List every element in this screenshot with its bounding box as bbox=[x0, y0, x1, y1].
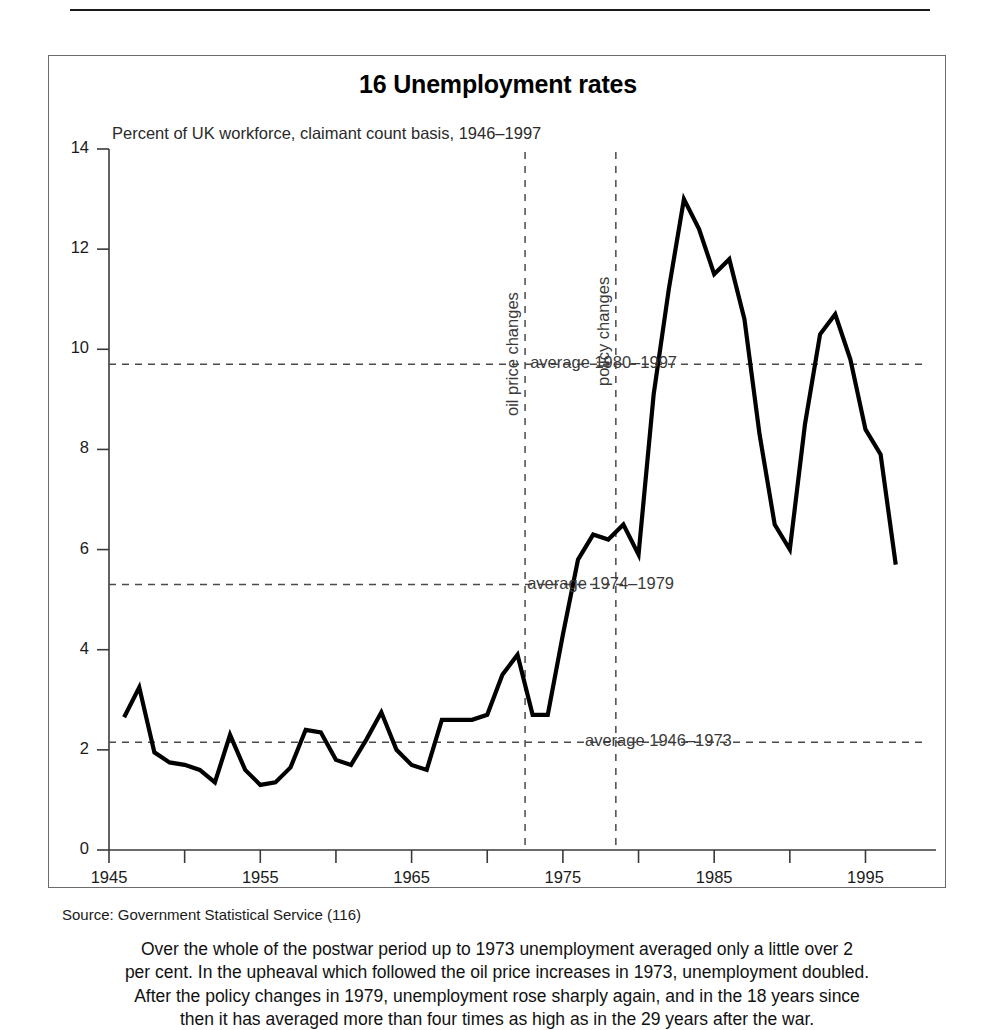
x-axis-tick-label: 1995 bbox=[830, 868, 900, 887]
event-line-label: policy changes bbox=[594, 277, 613, 386]
page-top-rule bbox=[70, 9, 930, 11]
chart-svg bbox=[49, 56, 947, 889]
caption-line: After the policy changes in 1979, unempl… bbox=[52, 985, 942, 1008]
average-line-label: average 1974–1979 bbox=[49, 574, 674, 593]
x-axis-tick-label: 1975 bbox=[528, 868, 598, 887]
y-axis-tick-label: 14 bbox=[49, 138, 89, 157]
chart-source: Source: Government Statistical Service (… bbox=[62, 906, 361, 923]
average-line-label: average 1980–1997 bbox=[49, 353, 677, 372]
average-line-label: average 1946–1973 bbox=[585, 731, 732, 750]
y-axis-tick-label: 8 bbox=[49, 438, 89, 457]
chart-figure: 16 Unemployment rates Percent of UK work… bbox=[48, 55, 946, 888]
y-axis-tick-label: 12 bbox=[49, 238, 89, 257]
caption-line: per cent. In the upheaval which followed… bbox=[52, 961, 942, 984]
unemployment-rate-line bbox=[124, 199, 896, 785]
caption-line: Over the whole of the postwar period up … bbox=[52, 938, 942, 961]
x-axis-tick-label: 1945 bbox=[74, 868, 144, 887]
y-axis-tick-label: 6 bbox=[49, 539, 89, 558]
chart-caption: Over the whole of the postwar period up … bbox=[52, 938, 942, 1030]
x-axis-tick-label: 1955 bbox=[225, 868, 295, 887]
caption-line: then it has averaged more than four time… bbox=[52, 1008, 942, 1030]
y-axis-tick-label: 0 bbox=[49, 839, 89, 858]
event-line-label: oil price changes bbox=[503, 292, 522, 416]
y-axis-tick-label: 4 bbox=[49, 639, 89, 658]
y-axis-tick-label: 2 bbox=[49, 739, 89, 758]
plot-area: 02468101214194519551965197519851995avera… bbox=[49, 56, 947, 889]
x-axis-tick-label: 1985 bbox=[679, 868, 749, 887]
x-axis-tick-label: 1965 bbox=[377, 868, 447, 887]
